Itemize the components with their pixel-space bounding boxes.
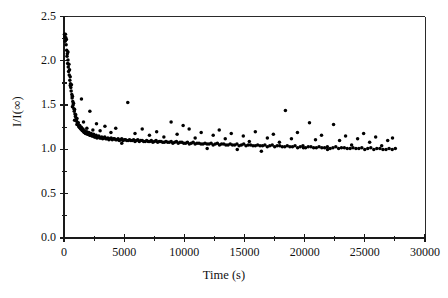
data-point bbox=[68, 79, 72, 83]
data-point-outlier bbox=[356, 137, 360, 141]
data-point-outlier bbox=[95, 122, 99, 126]
data-point-outlier bbox=[155, 130, 159, 134]
data-point-outlier bbox=[120, 141, 124, 145]
data-point-outlier bbox=[230, 132, 234, 136]
data-point-outlier bbox=[254, 130, 258, 134]
data-point-outlier bbox=[193, 136, 197, 140]
data-point bbox=[375, 147, 379, 151]
y-tick-label: 0.5 bbox=[20, 186, 56, 201]
data-point-outlier bbox=[91, 128, 95, 132]
data-point-outlier bbox=[181, 124, 185, 128]
x-axis-title: Time (s) bbox=[0, 268, 448, 283]
data-point-outlier bbox=[266, 136, 270, 140]
data-point-outlier bbox=[103, 125, 107, 129]
data-point bbox=[360, 146, 364, 150]
data-point-outlier bbox=[278, 141, 282, 145]
data-point-outlier bbox=[338, 139, 342, 143]
y-tick-label: 2.5 bbox=[20, 9, 56, 24]
data-point-outlier bbox=[368, 141, 372, 145]
data-point-outlier bbox=[88, 110, 92, 114]
data-point bbox=[387, 147, 391, 151]
data-point-outlier bbox=[114, 126, 118, 130]
data-point-outlier bbox=[73, 118, 77, 122]
x-tick-label: 30000 bbox=[390, 245, 448, 260]
data-point-outlier bbox=[290, 137, 294, 141]
data-point bbox=[384, 148, 388, 152]
data-point-outlier bbox=[386, 139, 390, 143]
data-point-outlier bbox=[69, 84, 73, 88]
data-point-outlier bbox=[175, 133, 179, 137]
data-point-outlier bbox=[284, 109, 288, 113]
data-point-outlier bbox=[362, 132, 366, 136]
data-point bbox=[74, 113, 78, 117]
data-point-outlier bbox=[272, 133, 276, 137]
data-point-outlier bbox=[217, 128, 221, 132]
data-point bbox=[64, 43, 68, 47]
data-point-outlier bbox=[148, 133, 152, 137]
data-point-outlier bbox=[211, 133, 215, 137]
data-point bbox=[68, 75, 72, 79]
data-point-outlier bbox=[109, 131, 113, 135]
data-point-outlier bbox=[380, 144, 384, 148]
data-point-outlier bbox=[391, 136, 395, 140]
data-point bbox=[390, 148, 394, 152]
data-point-outlier bbox=[314, 138, 318, 142]
data-point-outlier bbox=[320, 133, 324, 137]
y-tick-label: 2.0 bbox=[20, 53, 56, 68]
data-point-outlier bbox=[242, 134, 246, 138]
data-point-outlier bbox=[80, 97, 84, 101]
data-point-outlier bbox=[199, 131, 203, 135]
data-point-outlier bbox=[75, 123, 79, 127]
data-point bbox=[366, 147, 370, 151]
data-point bbox=[369, 146, 373, 150]
data-point-outlier bbox=[133, 132, 137, 136]
data-point-outlier bbox=[187, 127, 191, 131]
data-point-outlier bbox=[296, 131, 300, 135]
data-point bbox=[68, 68, 72, 72]
data-point-outlier bbox=[248, 140, 252, 144]
data-point bbox=[363, 148, 367, 152]
axes-group bbox=[64, 17, 425, 239]
data-point-outlier bbox=[308, 121, 312, 125]
data-point bbox=[65, 38, 69, 42]
data-point-outlier bbox=[71, 105, 75, 109]
data-point-outlier bbox=[82, 120, 86, 124]
data-point-outlier bbox=[326, 148, 330, 152]
data-point-outlier bbox=[169, 120, 173, 124]
data-point-outlier bbox=[98, 129, 102, 133]
data-point-outlier bbox=[85, 126, 89, 130]
y-tick-label: 1.0 bbox=[20, 141, 56, 156]
data-point bbox=[67, 63, 71, 67]
data-point bbox=[66, 58, 70, 62]
data-point-outlier bbox=[332, 123, 336, 127]
data-point-outlier bbox=[205, 147, 209, 151]
data-point-outlier bbox=[162, 135, 166, 139]
data-point-outlier bbox=[236, 148, 240, 152]
data-point bbox=[71, 94, 75, 98]
data-point-outlier bbox=[126, 101, 130, 105]
data-point-outlier bbox=[350, 143, 354, 147]
data-point bbox=[372, 148, 376, 152]
y-tick-label: 0.0 bbox=[20, 230, 56, 245]
data-point-outlier bbox=[302, 146, 306, 150]
data-point-outlier bbox=[140, 127, 144, 131]
data-point bbox=[69, 89, 73, 93]
data-point-outlier bbox=[260, 149, 264, 153]
y-tick-label: 1.5 bbox=[20, 97, 56, 112]
data-point-outlier bbox=[344, 134, 348, 138]
data-points-group bbox=[63, 32, 397, 152]
data-point bbox=[381, 148, 385, 152]
data-point bbox=[394, 147, 398, 151]
data-point-outlier bbox=[224, 137, 228, 141]
data-point bbox=[64, 32, 68, 36]
data-point-outlier bbox=[374, 135, 378, 139]
data-point-outlier bbox=[66, 50, 70, 54]
chart-figure: I/I(∞) Time (s) 0.00.51.01.52.02.5 05000… bbox=[0, 0, 448, 298]
data-point bbox=[72, 102, 76, 106]
